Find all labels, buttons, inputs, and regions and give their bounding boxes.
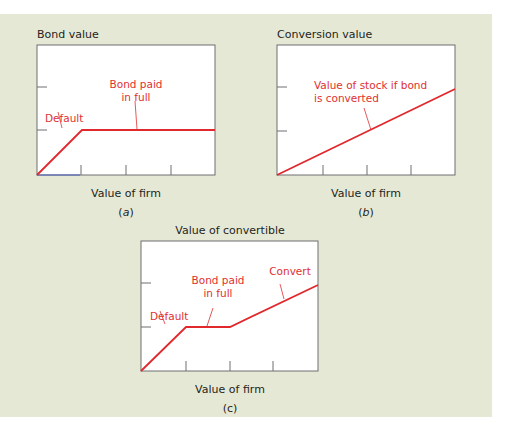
panel-a-y-title: Bond value	[37, 28, 99, 41]
panel-b-conversion-value: Conversion value Value of stock if bond …	[277, 28, 455, 219]
panel-a-bond-value: Bond value Default Bond paid in full Val…	[37, 28, 215, 219]
panel-a-x-label: Value of firm	[91, 187, 161, 200]
panel-b-label-line1: Value of stock if bond	[314, 79, 427, 91]
panel-c-label-convert: Convert	[269, 265, 311, 277]
panel-b-x-label: Value of firm	[331, 187, 401, 200]
panel-c-label-default: Default	[150, 310, 188, 322]
panel-b-caption: (b)	[358, 206, 374, 219]
panel-a-label-default: Default	[45, 112, 83, 124]
panel-c-y-title: Value of convertible	[175, 224, 285, 237]
panel-c-value-of-convertible: Value of convertible Default Bond paid i…	[141, 224, 318, 415]
panel-c-x-label: Value of firm	[195, 383, 265, 396]
panel-c-label-paid-line2: in full	[203, 287, 232, 299]
panel-b-y-title: Conversion value	[277, 28, 372, 41]
panel-a-label-paid-line2: in full	[121, 91, 150, 103]
panel-a-caption: (a)	[118, 206, 133, 219]
panel-a-label-paid-line1: Bond paid	[110, 78, 163, 90]
panel-b-plot-area	[277, 45, 455, 175]
panel-b-label-line2: is converted	[314, 92, 379, 104]
panel-c-plot-area	[141, 241, 318, 371]
convertible-bond-figure: Bond value Default Bond paid in full Val…	[0, 0, 512, 435]
panel-c-label-paid-line1: Bond paid	[192, 274, 245, 286]
panel-a-plot-area	[37, 45, 215, 175]
panel-c-caption: (c)	[223, 402, 238, 415]
